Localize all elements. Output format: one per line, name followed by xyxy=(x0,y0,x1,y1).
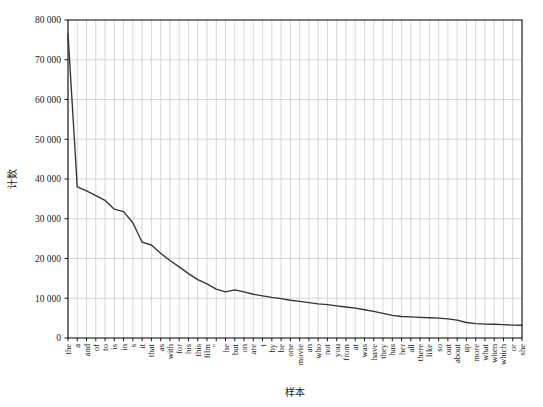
word-frequency-line-chart: 010 00020 00030 00040 00050 00060 00070 … xyxy=(0,0,543,407)
x-tick-label: she xyxy=(517,344,527,356)
y-tick-label: 10 000 xyxy=(35,294,61,304)
y-tick-label: 40 000 xyxy=(35,174,61,184)
y-axis-tick-labels: 010 00020 00030 00040 00050 00060 00070 … xyxy=(35,15,61,343)
y-tick-label: 0 xyxy=(56,333,61,343)
y-tick-label: 60 000 xyxy=(35,95,61,105)
y-axis-title: 计数 xyxy=(6,169,18,189)
x-axis-title: 样本 xyxy=(285,386,305,398)
y-tick-label: 50 000 xyxy=(35,135,61,145)
chart-figure: 010 00020 00030 00040 00050 00060 00070 … xyxy=(0,0,543,407)
y-tick-label: 20 000 xyxy=(35,254,61,264)
y-tick-label: 80 000 xyxy=(35,15,61,25)
y-tick-label: 30 000 xyxy=(35,214,61,224)
y-tick-label: 70 000 xyxy=(35,55,61,65)
